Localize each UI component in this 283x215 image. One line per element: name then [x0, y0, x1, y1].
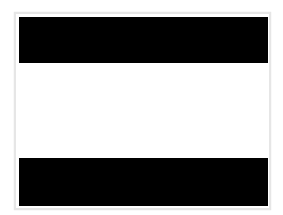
white-band-middle	[19, 63, 268, 158]
black-band-bottom	[19, 158, 268, 206]
black-band-top	[19, 17, 268, 63]
